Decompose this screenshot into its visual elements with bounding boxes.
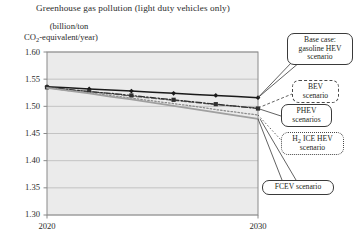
callout-phev-line2: scenarios: [286, 116, 327, 125]
callout-bev: BEV scenario: [292, 80, 339, 103]
callout-h2-line2: scenario: [286, 144, 339, 153]
callout-phev: PHEV scenarios: [281, 104, 332, 127]
h2-subscript: 2: [298, 137, 301, 144]
ice-hev-text: ICE HEV: [301, 134, 333, 143]
chart-screenshot: Greenhouse gas pollution (light duty veh…: [0, 0, 356, 244]
callout-h2-ice-hev: H2 ICE HEV scenario: [281, 132, 344, 155]
h2-text: H: [292, 134, 297, 143]
callout-base-case: Base case: gasoline HEV scenario: [287, 33, 353, 65]
callout-bev-line2: scenario: [297, 92, 334, 101]
callout-fcev: FCEV scenario: [262, 180, 334, 195]
callout-base-case-line3: scenario: [292, 53, 348, 62]
